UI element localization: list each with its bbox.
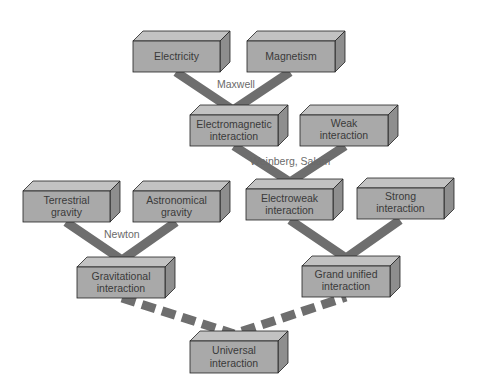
box-magnetism: Magnetism [247,31,345,72]
connector-grand-unified [290,220,400,258]
box-label-line2: interaction [265,204,314,216]
box-label-line2: interaction [376,202,425,214]
box-electroweak-interaction: Electroweak interaction [246,179,343,220]
box-label-line2: gravity [51,206,83,218]
box-astronomical-gravity: Astronomical gravity [133,181,230,222]
unification-diagram: Maxwell Weinberg, Salam Newton Electrici… [0,0,479,389]
box-electromagnetic-interaction: Electromagnetic interaction [190,105,288,146]
box-label-line2: gravity [161,206,193,218]
box-universal-interaction: Universal interaction [190,331,288,373]
connector-label-weinberg-salam: Weinberg, Salam [250,155,331,167]
box-label-line2: interaction [210,130,259,142]
connector-label-newton: Newton [104,228,140,240]
box-label-line1: Weak [331,117,358,129]
box-label: Magnetism [265,50,317,62]
connector-label-maxwell: Maxwell [217,78,255,90]
box-electricity: Electricity [133,31,230,72]
box-label-line2: interaction [97,282,146,294]
box-weak-interaction: Weak interaction [300,105,398,146]
box-label-line1: Grand unified [314,268,377,280]
box-label-line1: Terrestrial [43,194,89,206]
box-label-line1: Strong [385,190,416,202]
box-grand-unified-interaction: Grand unified interaction [302,256,400,297]
connector-universal-dashed [122,297,346,334]
box-label: Electricity [154,50,200,62]
box-label-line2: interaction [322,280,371,292]
box-terrestrial-gravity: Terrestrial gravity [23,181,120,222]
box-label-line1: Universal [212,344,256,356]
box-gravitational-interaction: Gravitational interaction [77,257,175,298]
box-label-line1: Gravitational [92,270,151,282]
box-label-line1: Astronomical [146,194,207,206]
box-strong-interaction: Strong interaction [357,178,454,219]
box-label-line2: interaction [210,357,259,369]
box-label-line1: Electroweak [261,192,319,204]
box-label-line1: Electromagnetic [196,118,271,130]
box-label-line2: interaction [320,129,369,141]
